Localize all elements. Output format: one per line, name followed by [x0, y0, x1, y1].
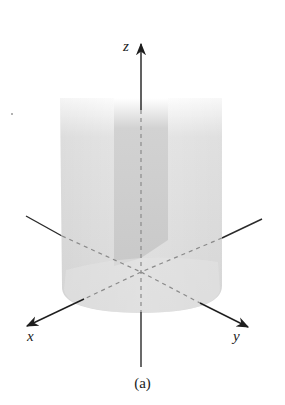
y-axis-back	[222, 219, 262, 238]
diagram-canvas	[0, 0, 285, 405]
figure-caption: (a)	[0, 376, 285, 391]
speck	[11, 113, 13, 115]
y-axis	[200, 303, 248, 327]
cylinder-figure: z x y (a)	[0, 0, 285, 405]
z-axis-label: z	[123, 39, 129, 54]
cylinder-base	[64, 258, 220, 314]
x-axis-back	[26, 216, 62, 236]
y-axis-label: y	[233, 329, 240, 344]
x-axis-label: x	[27, 329, 34, 344]
x-axis	[27, 299, 84, 326]
